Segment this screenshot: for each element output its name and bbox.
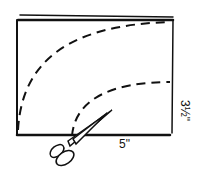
paper-cutting-diagram: [0, 0, 209, 179]
height-label: 3½": [178, 100, 192, 121]
outer-dashed-curve: [18, 22, 170, 130]
paper-rectangle: [17, 15, 173, 135]
scissors-icon: [48, 110, 112, 169]
width-label: 5": [119, 137, 130, 151]
